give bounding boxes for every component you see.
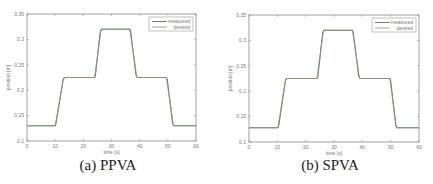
x-axis-label: time [s] [326,150,343,156]
x-tick-label: 20 [303,144,309,150]
x-tick-label: 40 [360,144,366,150]
x-tick-label: 10 [52,143,58,149]
axes-box [249,15,419,142]
y-tick-label: 0.2 [17,87,24,93]
axes-box [27,14,196,141]
y-tick-label: 0.15 [14,112,24,118]
caption-spva: (b) SPVA [222,157,433,174]
y-tick-label: 0.35 [14,11,24,17]
legend-label-desired: desired [174,24,191,30]
x-axis-label: time [s] [103,149,120,155]
y-axis-label: position [m] [227,65,233,91]
x-tick-label: 10 [275,144,281,150]
x-tick-label: 20 [81,143,87,149]
y-tick-label: 0.1 [17,138,24,144]
plot-ppva: 01020304050600.10.150.20.250.30.35time [… [0,0,216,160]
plot-spva: 01020304050600.10.150.20.250.30.35time [… [216,0,432,160]
chart-panel-spva: 01020304050600.10.150.20.250.30.35time [… [216,0,432,184]
y-tick-label: 0.2 [239,88,246,94]
x-tick-label: 50 [388,144,394,150]
x-tick-label: 40 [137,143,143,149]
y-tick-label: 0.35 [236,12,246,18]
x-tick-label: 60 [416,144,422,150]
chart-panel-ppva: 01020304050600.10.150.20.250.30.35time [… [0,0,216,184]
x-tick-label: 60 [193,143,199,149]
legend-label-desired: desired [397,25,414,31]
y-tick-label: 0.15 [236,113,246,119]
caption-ppva: (a) PPVA [0,157,216,174]
x-tick-label: 0 [26,143,29,149]
y-tick-label: 0.25 [14,62,24,68]
y-tick-label: 0.3 [17,36,24,42]
x-tick-label: 0 [248,144,251,150]
y-tick-label: 0.3 [239,37,246,43]
y-tick-label: 0.1 [239,139,246,145]
y-tick-label: 0.25 [236,63,246,69]
x-tick-label: 50 [165,143,171,149]
y-axis-label: position [m] [5,64,11,90]
